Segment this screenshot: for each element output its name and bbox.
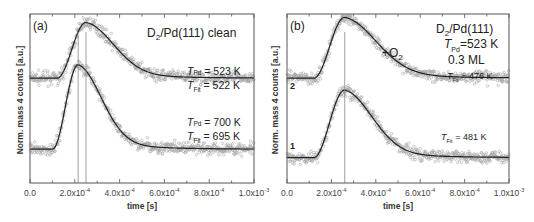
annotation-coverage: 0.3 ML <box>448 53 485 67</box>
svg-text:8.0x10-4: 8.0x10-4 <box>449 187 479 198</box>
panel-b: 0.02.0x10-44.0x10-46.0x10-48.0x10-41.0x1… <box>270 14 524 211</box>
svg-text:4.0x10-4: 4.0x10-4 <box>361 187 391 198</box>
svg-text:4.0x10-4: 4.0x10-4 <box>104 187 134 198</box>
svg-text:0.0: 0.0 <box>281 188 293 198</box>
panel-b-x-axis-title: time [s] <box>383 201 413 211</box>
panel-b-label: (b) <box>290 19 305 33</box>
curve-label-2: 2 <box>290 81 295 91</box>
svg-text:1.0x10-3: 1.0x10-3 <box>494 187 524 198</box>
panel-a-x-axis-title: time [s] <box>127 201 157 211</box>
svg-text:1.0x10-3: 1.0x10-3 <box>239 187 269 198</box>
curve-label-1: 1 <box>290 141 295 151</box>
annotation-tpd-523: TPd = 523 K <box>187 65 241 77</box>
svg-text:8.0x10-4: 8.0x10-4 <box>194 187 224 198</box>
svg-text:6.0x10-4: 6.0x10-4 <box>405 187 435 198</box>
annotation-tfit-522: TFit = 522 K <box>187 79 240 93</box>
panel-a-peak-markers <box>78 32 86 183</box>
panel-a-y-axis-title: Norm. mass 4 counts [a.u.] <box>15 46 25 155</box>
svg-text:6.0x10-4: 6.0x10-4 <box>149 187 179 198</box>
panel-b-y-axis-title: Norm. mass 4 counts [a.u.] <box>270 46 280 155</box>
annotation-tfit-481: TFit = 481 K <box>441 132 486 144</box>
svg-text:2.0x10-4: 2.0x10-4 <box>60 187 90 198</box>
panel-a-x-ticks: 0.02.0x10-44.0x10-46.0x10-48.0x10-41.0x1… <box>24 14 269 198</box>
annotation-plus-o2: +O2 <box>382 46 403 62</box>
annotation-tfit-695: TFit = 695 K <box>187 130 240 144</box>
annotation-tpd-700: TPd = 700 K <box>187 116 241 128</box>
annotation-tfit-476: TFit = 476 K <box>447 71 492 83</box>
annotation-tpd-523-b: TPd=523 K <box>444 37 498 53</box>
figure: 0.02.0x10-44.0x10-46.0x10-48.0x10-41.0x1… <box>0 0 534 222</box>
panel-a: 0.02.0x10-44.0x10-46.0x10-48.0x10-41.0x1… <box>15 14 269 211</box>
panel-a-title: D2/Pd(111) clean <box>147 26 236 42</box>
svg-text:2.0x10-4: 2.0x10-4 <box>316 187 346 198</box>
svg-text:0.0: 0.0 <box>24 188 36 198</box>
panel-b-title: D2/Pd(111) <box>436 22 493 38</box>
panel-a-label: (a) <box>33 19 48 33</box>
